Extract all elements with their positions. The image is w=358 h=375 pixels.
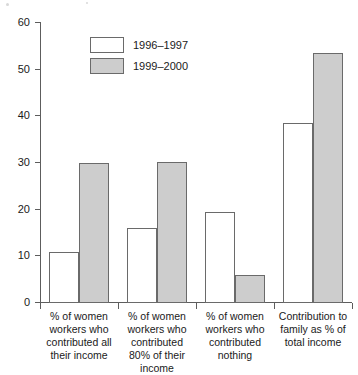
gray-swatch-icon xyxy=(90,58,124,74)
y-tick-label: 20 xyxy=(0,204,30,215)
bar xyxy=(313,53,343,303)
y-tick-label: 0 xyxy=(0,297,30,308)
x-tick xyxy=(40,303,41,309)
category-label: Contribution to family as % of total inc… xyxy=(274,310,352,372)
category-label: % of women workers who contributed nothi… xyxy=(196,310,274,372)
legend-label: 1999–2000 xyxy=(133,61,188,72)
y-tick-label: 50 xyxy=(0,64,30,75)
bar-chart: 0102030405060 1996–1997 1999–2000 % of w… xyxy=(0,0,358,375)
y-tick-label: 30 xyxy=(0,157,30,168)
category-label: % of women workers who contributed 80% o… xyxy=(118,310,196,372)
legend-label: 1996–1997 xyxy=(133,40,188,51)
bar xyxy=(127,228,157,303)
bar xyxy=(49,252,79,303)
bar xyxy=(205,212,235,303)
x-tick xyxy=(118,303,119,309)
white-swatch-icon xyxy=(90,37,124,53)
scan-artifact xyxy=(86,2,88,4)
chart-legend: 1996–1997 1999–2000 xyxy=(90,36,188,78)
scan-artifact xyxy=(6,3,9,6)
legend-item: 1996–1997 xyxy=(90,36,188,54)
bar xyxy=(79,163,109,303)
bar xyxy=(157,162,187,303)
plot-area: 0102030405060 1996–1997 1999–2000 xyxy=(40,22,352,302)
category-label: % of women workers who contributed all t… xyxy=(40,310,118,372)
bars-layer xyxy=(40,22,352,303)
y-tick-label: 60 xyxy=(0,17,30,28)
x-tick xyxy=(196,303,197,309)
bar xyxy=(283,123,313,303)
y-tick-label: 40 xyxy=(0,110,30,121)
x-tick xyxy=(352,303,353,309)
legend-item: 1999–2000 xyxy=(90,57,188,75)
x-tick xyxy=(274,303,275,309)
category-labels: % of women workers who contributed all t… xyxy=(40,310,352,372)
y-tick-label: 10 xyxy=(0,250,30,261)
bar xyxy=(235,275,265,303)
